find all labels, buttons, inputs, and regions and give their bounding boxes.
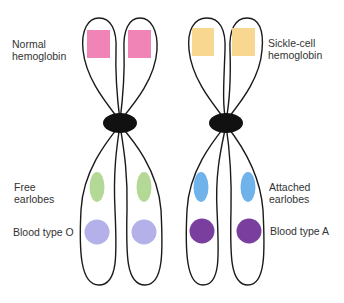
lower-chromatid-4 xyxy=(226,125,264,285)
sickle-hemoglobin-band-1 xyxy=(192,28,214,56)
label-line: Free xyxy=(14,181,54,193)
centromere-right xyxy=(209,113,243,133)
label-normal-hemoglobin: Normal hemoglobin xyxy=(12,38,66,62)
attached-earlobes-spot-1 xyxy=(194,172,209,202)
blood-type-a-spot-1 xyxy=(190,219,215,244)
lower-chromatid-2 xyxy=(120,125,162,285)
attached-earlobes-spot-2 xyxy=(241,172,256,202)
label-line: earlobes xyxy=(14,193,54,205)
blood-type-o-spot-2 xyxy=(132,220,157,245)
label-line: Normal xyxy=(12,38,66,50)
normal-hemoglobin-band-2 xyxy=(128,30,151,58)
sickle-hemoglobin-band-2 xyxy=(232,28,255,56)
label-blood-type-o: Blood type O xyxy=(13,226,74,238)
label-line: hemoglobin xyxy=(268,49,322,61)
chromosome-left xyxy=(80,18,162,285)
chromosome-right xyxy=(186,18,264,285)
free-earlobes-spot-1 xyxy=(90,172,105,202)
lower-chromatid-1 xyxy=(80,125,120,285)
label-line: earlobes xyxy=(269,193,310,205)
label-line: Sickle-cell xyxy=(268,37,322,49)
label-line: Attached xyxy=(269,181,310,193)
free-earlobes-spot-2 xyxy=(137,172,152,202)
blood-type-o-spot-1 xyxy=(85,220,110,245)
label-free-earlobes: Free earlobes xyxy=(14,181,54,205)
label-blood-type-a: Blood type A xyxy=(270,225,329,237)
normal-hemoglobin-band-1 xyxy=(87,30,110,58)
label-line: hemoglobin xyxy=(12,50,66,62)
centromere-left xyxy=(103,113,137,133)
blood-type-a-spot-2 xyxy=(237,219,262,244)
label-attached-earlobes: Attached earlobes xyxy=(269,181,310,205)
label-sickle-cell-hemoglobin: Sickle-cell hemoglobin xyxy=(268,37,322,61)
lower-chromatid-3 xyxy=(186,125,226,285)
